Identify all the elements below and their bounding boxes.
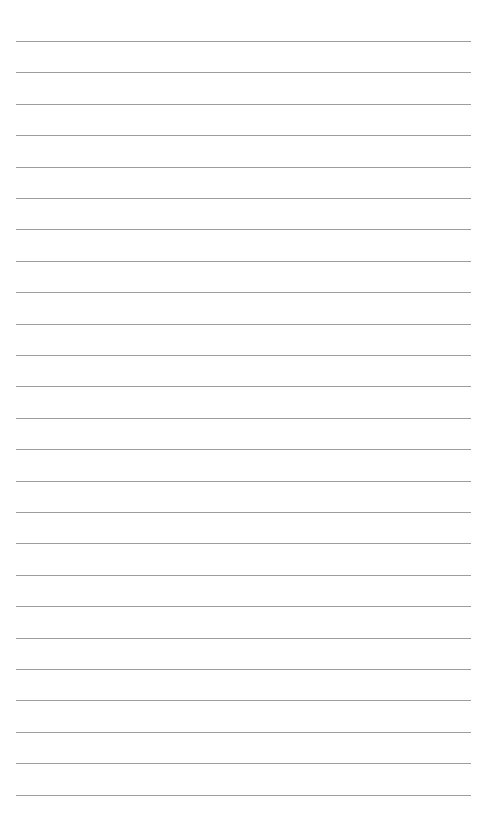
ruled-line	[16, 72, 471, 73]
ruled-line	[16, 732, 471, 733]
ruled-line	[16, 198, 471, 199]
ruled-line	[16, 481, 471, 482]
ruled-line	[16, 606, 471, 607]
ruled-line	[16, 763, 471, 764]
ruled-line	[16, 355, 471, 356]
ruled-line	[16, 41, 471, 42]
ruled-line	[16, 229, 471, 230]
ruled-line	[16, 135, 471, 136]
ruled-line	[16, 669, 471, 670]
ruled-line	[16, 167, 471, 168]
ruled-line	[16, 418, 471, 419]
ruled-line	[16, 386, 471, 387]
ruled-line	[16, 638, 471, 639]
lined-paper-page	[0, 0, 488, 827]
ruled-line	[16, 449, 471, 450]
ruled-line	[16, 700, 471, 701]
ruled-line	[16, 795, 471, 796]
ruled-line	[16, 512, 471, 513]
ruled-line	[16, 575, 471, 576]
ruled-line	[16, 543, 471, 544]
ruled-line	[16, 104, 471, 105]
ruled-line	[16, 261, 471, 262]
ruled-line	[16, 324, 471, 325]
ruled-line	[16, 292, 471, 293]
